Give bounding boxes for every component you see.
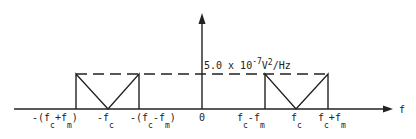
positive-band (265, 74, 328, 109)
tick-zero: 0 (199, 112, 205, 123)
tick-fc-plus-fm: fc+fm (318, 112, 346, 130)
axis-arrow-icon (383, 106, 393, 113)
level-label: 5.0 x 10-7V2/Hz (204, 57, 291, 71)
tick-neg-fc-minus-fm: -(fc-fm) (130, 112, 176, 130)
tick-neg-fc-plus-fm: -(fc+fm) (32, 112, 78, 130)
psd-diagram: f 5.0 x 10-7V2/Hz -(fc+fm) -fc (0, 0, 416, 139)
axis-arrow-icon (199, 13, 206, 24)
tick-fc-minus-fm: fc-fm (237, 112, 265, 130)
tick-neg-fc: -fc (97, 112, 114, 130)
tick-labels: -(fc+fm) -fc -(fc-fm) 0 fc-fm fc fc+fm (32, 112, 346, 130)
negative-band (76, 74, 139, 109)
tick-fc: fc (291, 112, 302, 130)
x-axis-label: f (399, 104, 405, 115)
